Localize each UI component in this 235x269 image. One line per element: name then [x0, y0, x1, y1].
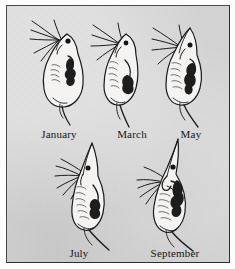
carapace-july — [72, 143, 104, 230]
specimen-september — [135, 136, 219, 252]
specimen-march — [89, 20, 155, 128]
daphnia-cyclomorphosis-figure: January March May July September — [0, 0, 235, 269]
plate-frame: January March May July September — [6, 5, 230, 263]
label-january: January — [21, 128, 97, 140]
specimen-may — [149, 19, 221, 129]
label-march: March — [99, 128, 165, 140]
specimen-july — [55, 139, 131, 251]
tail-spine-may — [184, 105, 198, 127]
tail-spine-january — [62, 106, 70, 125]
label-may: May — [163, 128, 219, 140]
label-september: September — [129, 247, 221, 259]
gut-mass-july — [90, 199, 101, 219]
tail-spine-march — [120, 105, 129, 127]
label-july: July — [45, 247, 113, 259]
